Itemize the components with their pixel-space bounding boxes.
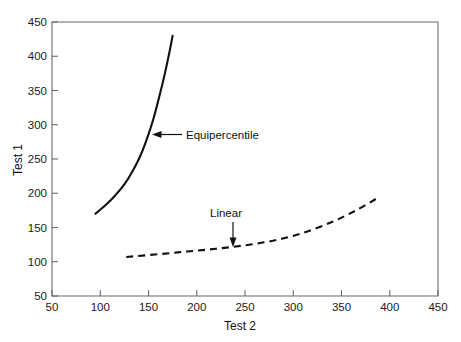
y-axis-ticks (52, 22, 58, 296)
x-tick-label: 100 (91, 301, 110, 313)
y-tick-label: 100 (28, 256, 47, 268)
annotation-equipercentile: Equipercentile (152, 129, 259, 141)
x-axis-title: Test 2 (224, 319, 256, 333)
data-series-group (95, 36, 376, 257)
x-tick-label: 450 (428, 301, 447, 313)
y-tick-label: 350 (28, 85, 47, 97)
series-linear-line (126, 199, 376, 257)
x-tick-label: 300 (284, 301, 303, 313)
equipercentile-label: Equipercentile (186, 129, 259, 141)
chart-figure: 450 400 350 300 250 200 150 100 50 50 10… (0, 0, 461, 342)
annotation-linear: Linear (210, 207, 242, 247)
y-axis-tick-labels: 450 400 350 300 250 200 150 100 50 (28, 16, 47, 302)
y-tick-label: 450 (28, 16, 47, 28)
x-tick-label: 200 (187, 301, 206, 313)
chart-canvas: 450 400 350 300 250 200 150 100 50 50 10… (0, 0, 461, 342)
equipercentile-arrow-head (152, 131, 162, 138)
linear-label: Linear (210, 207, 242, 219)
y-tick-label: 400 (28, 50, 47, 62)
y-tick-label: 200 (28, 187, 47, 199)
x-tick-label: 150 (139, 301, 158, 313)
y-tick-label: 150 (28, 222, 47, 234)
x-axis-tick-labels: 50 100 150 200 250 300 350 400 450 (46, 301, 448, 313)
x-axis-ticks (52, 290, 438, 296)
x-tick-label: 400 (380, 301, 399, 313)
x-tick-label: 50 (46, 301, 59, 313)
series-equipercentile-line (95, 36, 172, 214)
x-tick-label: 250 (235, 301, 254, 313)
y-tick-label: 300 (28, 119, 47, 131)
plot-frame (52, 22, 438, 296)
y-tick-label: 250 (28, 153, 47, 165)
y-axis-title: Test 1 (11, 144, 25, 176)
x-tick-label: 350 (332, 301, 351, 313)
